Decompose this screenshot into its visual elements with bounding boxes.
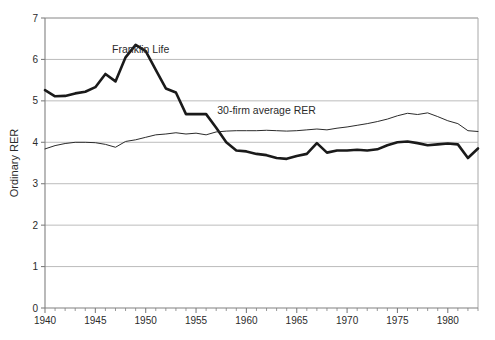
x-tick-label-1955: 1955: [185, 315, 208, 326]
y-axis-ticks: 76543210: [32, 13, 45, 314]
y-tick-label-2: 2: [32, 220, 38, 231]
y-tick-label-4: 4: [32, 137, 38, 148]
y-tick-label-6: 6: [32, 54, 38, 65]
series-label-franklin-life: Franklin Life: [112, 43, 169, 55]
y-tick-label-7: 7: [32, 13, 38, 24]
x-tick-label-1950: 1950: [135, 315, 158, 326]
plot-frame: [45, 18, 478, 308]
x-tick-label-1975: 1975: [386, 315, 409, 326]
data-series-group: [45, 45, 478, 159]
axes: [45, 18, 478, 308]
x-tick-label-1965: 1965: [286, 315, 309, 326]
x-tick-label-1940: 1940: [34, 315, 57, 326]
x-tick-label-1960: 1960: [235, 315, 258, 326]
x-tick-label-1970: 1970: [336, 315, 359, 326]
y-tick-label-1: 1: [32, 261, 38, 272]
y-tick-label-5: 5: [32, 95, 38, 106]
series-label-thirty-firm-average: 30-firm average RER: [217, 104, 316, 116]
x-tick-label-1980: 1980: [437, 315, 460, 326]
x-axis-ticks: 194019451950195519601965197019751980: [34, 308, 478, 326]
series-line-franklin-life: [45, 45, 478, 159]
y-tick-label-0: 0: [32, 303, 38, 314]
chart-figure: 7654321019401945195019551960196519701975…: [0, 0, 495, 340]
rer-line-chart: 7654321019401945195019551960196519701975…: [0, 0, 495, 340]
y-tick-label-3: 3: [32, 178, 38, 189]
y-axis-title: Ordinary RER: [8, 129, 20, 198]
series-annotations: Franklin Life30-firm average RER: [112, 43, 316, 116]
x-tick-label-1945: 1945: [84, 315, 107, 326]
